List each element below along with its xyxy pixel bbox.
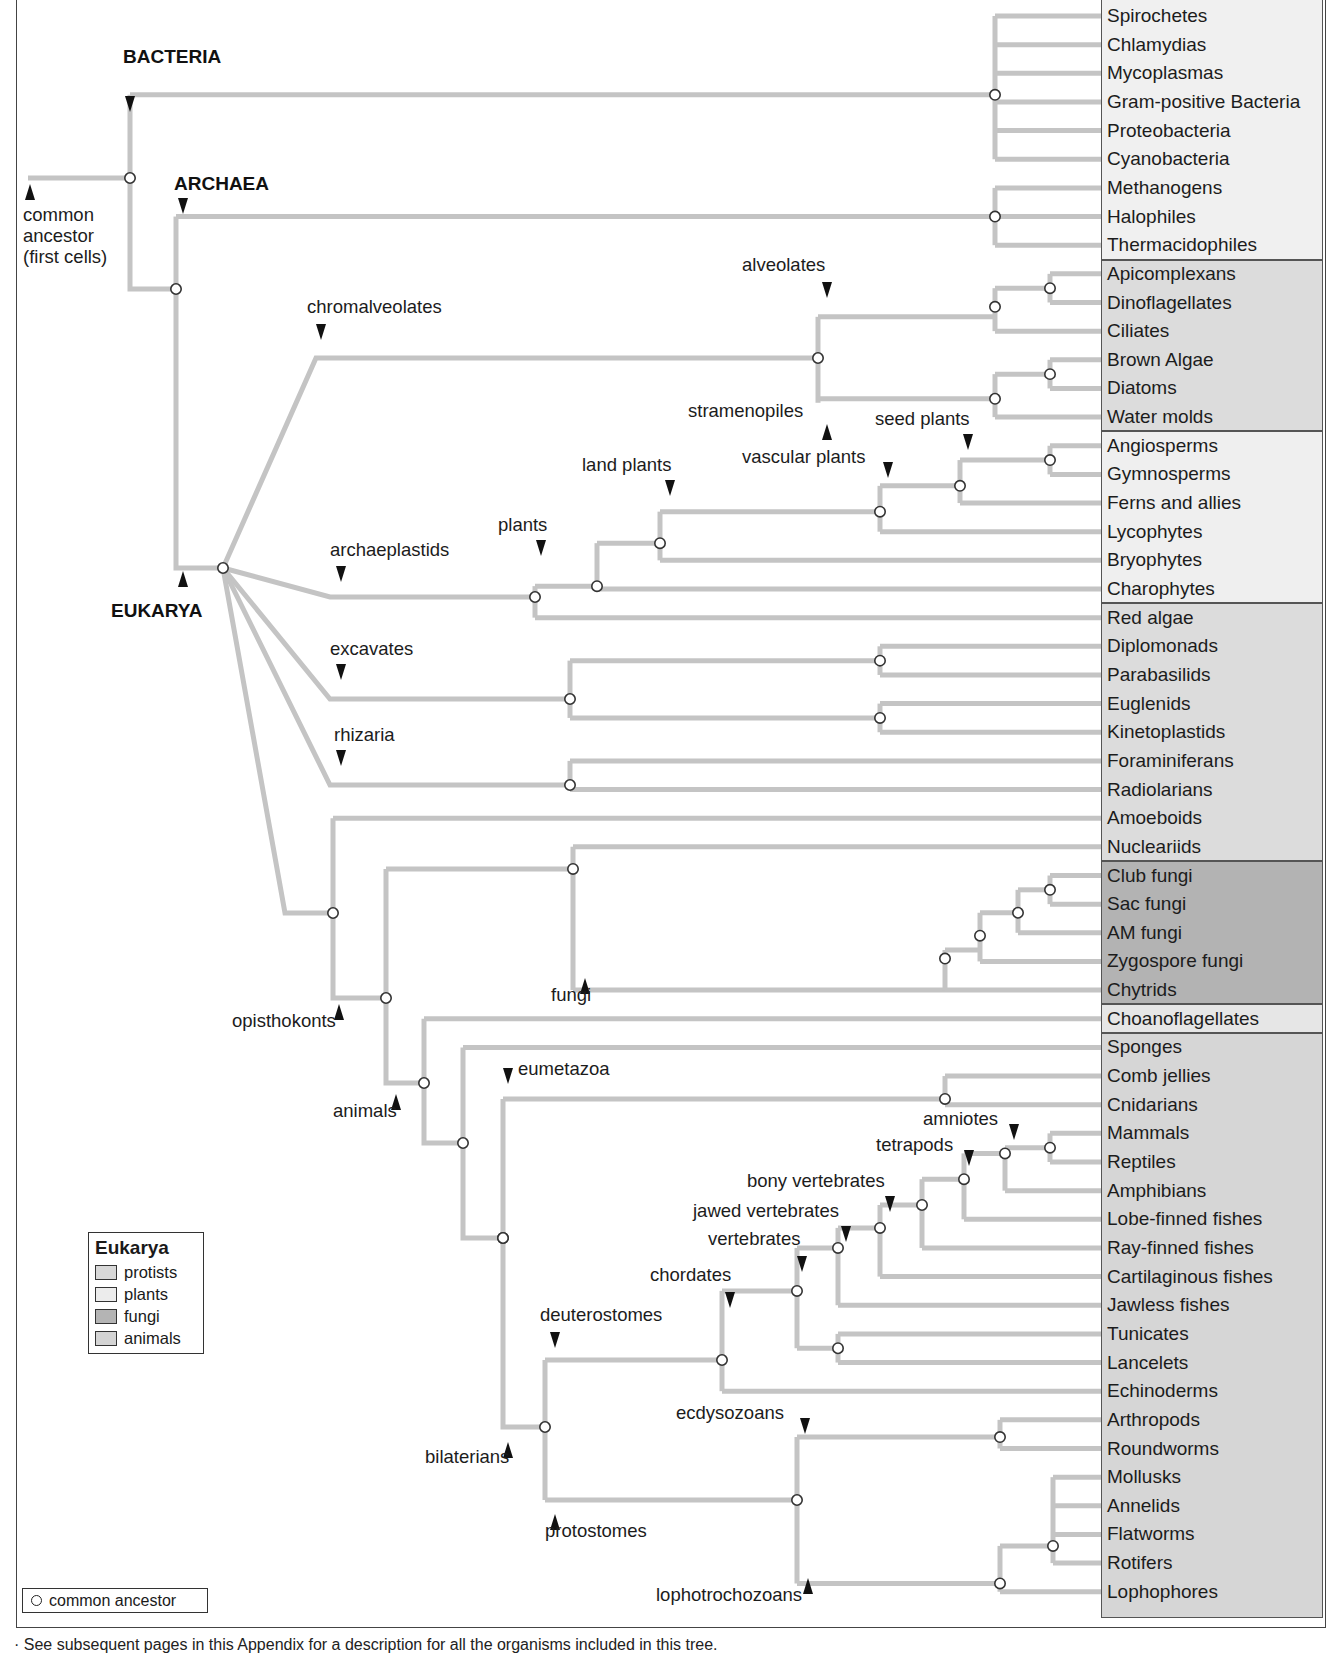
common-ancestor-node (792, 1495, 802, 1505)
leaf-label: Tunicates (1107, 1324, 1189, 1344)
leaf-label: Chlamydias (1107, 35, 1206, 55)
clade-label: bilaterians (425, 1446, 509, 1468)
common-ancestor-node (833, 1343, 843, 1353)
leaf-label: Spirochetes (1107, 6, 1207, 26)
leaf-label: Water molds (1107, 407, 1213, 427)
legend-item-plants: plants (95, 1283, 197, 1305)
clade-arrow-icon (803, 1578, 813, 1594)
clade-label: excavates (330, 638, 413, 660)
legend-label: fungi (124, 1307, 160, 1326)
common-ancestor-node (940, 1094, 950, 1104)
swatch-plants-icon (95, 1287, 117, 1302)
clade-arrow-icon (800, 1418, 810, 1434)
clade-arrow-icon (883, 462, 893, 478)
leaf-label: Sponges (1107, 1037, 1182, 1057)
common-ancestor-node (1013, 908, 1023, 918)
root-label: common ancestor (first cells) (23, 204, 107, 267)
leaf-label: Lobe-finned fishes (1107, 1209, 1262, 1229)
common-ancestor-node (498, 1233, 508, 1243)
common-ancestor-node (875, 506, 885, 516)
clade-arrow-icon (725, 1292, 735, 1308)
clade-label: jawed vertebrates (693, 1200, 839, 1222)
leaf-label: Parabasilids (1107, 665, 1211, 685)
clade-label: bony vertebrates (747, 1170, 885, 1192)
swatch-animals-icon (95, 1331, 117, 1346)
bacteria-arrow-icon (125, 96, 135, 112)
common-ancestor-node (1045, 283, 1055, 293)
common-ancestor-node (875, 1223, 885, 1233)
clade-arrow-icon (1009, 1124, 1019, 1140)
clade-arrow-icon (550, 1332, 560, 1348)
common-ancestor-node (568, 864, 578, 874)
root-label-line-1: common (23, 204, 107, 225)
leaf-label: Charophytes (1107, 579, 1215, 599)
clade-arrow-icon (336, 566, 346, 582)
common-ancestor-node (959, 1174, 969, 1184)
clade-label: protostomes (545, 1520, 647, 1542)
branch-vertical (386, 869, 424, 1083)
common-ancestor-node (1000, 1148, 1010, 1158)
archaea-arrow-icon (178, 198, 188, 214)
clade-label: ecdysozoans (676, 1402, 784, 1424)
leaf-label: Halophiles (1107, 207, 1196, 227)
domain-label-archaea: ARCHAEA (174, 173, 269, 195)
common-ancestor-node (328, 908, 338, 918)
root-label-line-3: (first cells) (23, 246, 107, 267)
leaf-label: Chytrids (1107, 980, 1177, 1000)
common-ancestor-node (717, 1355, 727, 1365)
swatch-fungi-icon (95, 1309, 117, 1324)
branch-eukarya (176, 289, 223, 568)
eukarya-arrow-icon (178, 571, 188, 587)
leaf-label: Arthropods (1107, 1410, 1200, 1430)
root-label-line-2: ancestor (23, 225, 107, 246)
leaf-label: Methanogens (1107, 178, 1222, 198)
leaf-label: Ciliates (1107, 321, 1169, 341)
clade-arrow-icon (336, 664, 346, 680)
common-ancestor-legend: common ancestor (22, 1588, 208, 1613)
clade-label: vascular plants (742, 446, 865, 468)
legend-label: animals (124, 1329, 181, 1348)
legend-label: plants (124, 1285, 168, 1304)
common-ancestor-node (218, 563, 228, 573)
branch-excavates (223, 568, 570, 699)
clade-label: opisthokonts (232, 1010, 336, 1032)
common-ancestor-node (655, 538, 665, 548)
clade-arrow-icon (822, 282, 832, 298)
common-ancestor-node (995, 1432, 1005, 1442)
legend-item-fungi: fungi (95, 1305, 197, 1327)
common-ancestor-node (125, 173, 135, 183)
branch-vertical (503, 1099, 545, 1427)
branch-vertical (424, 1083, 463, 1143)
clade-arrow-icon (336, 750, 346, 766)
common-ancestor-node (995, 1578, 1005, 1588)
branch-rhizaria (223, 568, 570, 785)
branch-vertical (333, 818, 386, 998)
leaf-label: Echinoderms (1107, 1381, 1218, 1401)
leaf-label: Roundworms (1107, 1439, 1219, 1459)
common-ancestor-node (565, 694, 575, 704)
leaf-label: Lycophytes (1107, 522, 1202, 542)
clade-label: lophotrochozoans (656, 1584, 802, 1606)
clade-label: alveolates (742, 254, 825, 276)
common-ancestor-node (1045, 455, 1055, 465)
eukarya-legend: Eukarya protists plants fungi animals (88, 1232, 204, 1354)
clade-arrow-icon (536, 540, 546, 556)
leaf-label: Mammals (1107, 1123, 1189, 1143)
clade-label: plants (498, 514, 547, 536)
common-ancestor-node (833, 1243, 843, 1253)
leaf-label: AM fungi (1107, 923, 1182, 943)
common-ancestor-node (813, 353, 823, 363)
leaf-label: Annelids (1107, 1496, 1180, 1516)
common-ancestor-node (990, 394, 1000, 404)
leaf-label: Bryophytes (1107, 550, 1202, 570)
leaf-label: Comb jellies (1107, 1066, 1210, 1086)
leaf-label: Sac fungi (1107, 894, 1186, 914)
leaf-label: Rotifers (1107, 1553, 1172, 1573)
leaf-label: Club fungi (1107, 866, 1193, 886)
root-arrow-icon (25, 184, 35, 200)
common-ancestor-node (955, 481, 965, 491)
common-ancestor-node (975, 930, 985, 940)
branch-chromalveolates (223, 358, 818, 568)
clade-label: eumetazoa (518, 1058, 610, 1080)
common-ancestor-node (990, 302, 1000, 312)
